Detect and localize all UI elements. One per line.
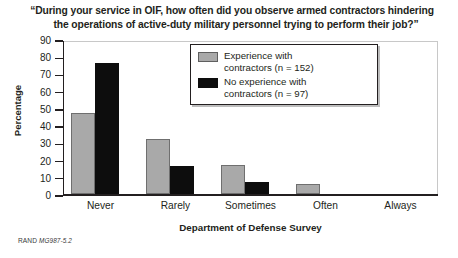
chart-title-line-2: the operations of active-duty military p… — [18, 18, 446, 32]
bar-often-series-0 — [296, 184, 320, 194]
bar-never-series-1 — [95, 63, 119, 194]
bar-sometimes-series-0 — [221, 165, 245, 194]
legend-label-experience-line-2: contractors (n = 152) — [224, 62, 314, 73]
legend-label-experience-line-1: Experience with — [224, 50, 292, 61]
x-tick-label-never: Never — [63, 200, 138, 212]
footer-source: RAND — [18, 237, 37, 244]
y-tick-label: 70 — [5, 69, 51, 81]
x-tick-label-sometimes: Sometimes — [213, 200, 288, 212]
figure-footer: RAND MG987-5.2 — [18, 237, 72, 244]
x-tick-label-rarely: Rarely — [138, 200, 213, 212]
y-tick-mark — [55, 126, 63, 127]
y-tick-mark — [55, 40, 63, 41]
y-tick-label: 90 — [5, 35, 51, 47]
y-tick-label: 0 — [5, 190, 51, 202]
y-tick-mark — [55, 178, 63, 179]
y-tick-mark — [55, 109, 63, 110]
chart-title-line-1: “During your service in OIF, how often d… — [18, 4, 446, 18]
y-tick-label: 30 — [5, 138, 51, 150]
y-tick-label: 20 — [5, 156, 51, 168]
y-tick-mark — [55, 195, 63, 196]
legend-label-experience: Experience with contractors (n = 152) — [224, 50, 314, 73]
chart-title: “During your service in OIF, how often d… — [18, 4, 446, 31]
footer-figure-id: MG987-5.2 — [39, 237, 72, 244]
x-axis-label: Department of Defense Survey — [63, 222, 438, 233]
y-axis-ticks: 0102030405060708090 — [0, 0, 63, 258]
chart-legend: Experience with contractors (n = 152) No… — [190, 44, 378, 105]
figure-container: “During your service in OIF, how often d… — [0, 0, 458, 258]
bar-rarely-series-1 — [170, 166, 194, 194]
bar-never-series-0 — [71, 113, 95, 194]
y-tick-label: 50 — [5, 104, 51, 116]
legend-swatch-black — [198, 78, 218, 88]
bar-rarely-series-0 — [146, 139, 170, 194]
y-tick-label: 80 — [5, 52, 51, 64]
y-tick-mark — [55, 58, 63, 59]
legend-swatch-gray — [198, 52, 218, 62]
y-tick-mark — [55, 161, 63, 162]
legend-item-no-experience: No experience with contractors (n = 97) — [198, 76, 371, 99]
y-tick-mark — [55, 92, 63, 93]
y-tick-mark — [55, 144, 63, 145]
legend-item-experience: Experience with contractors (n = 152) — [198, 50, 371, 73]
y-tick-label: 60 — [5, 87, 51, 99]
x-tick-label-often: Often — [288, 200, 363, 212]
bar-sometimes-series-1 — [245, 182, 269, 194]
legend-label-no-experience: No experience with contractors (n = 97) — [224, 76, 308, 99]
x-tick-label-always: Always — [363, 200, 438, 212]
y-tick-label: 40 — [5, 121, 51, 133]
legend-label-no-experience-line-2: contractors (n = 97) — [224, 88, 308, 99]
y-tick-label: 10 — [5, 173, 51, 185]
y-tick-mark — [55, 75, 63, 76]
legend-label-no-experience-line-1: No experience with — [224, 76, 306, 87]
